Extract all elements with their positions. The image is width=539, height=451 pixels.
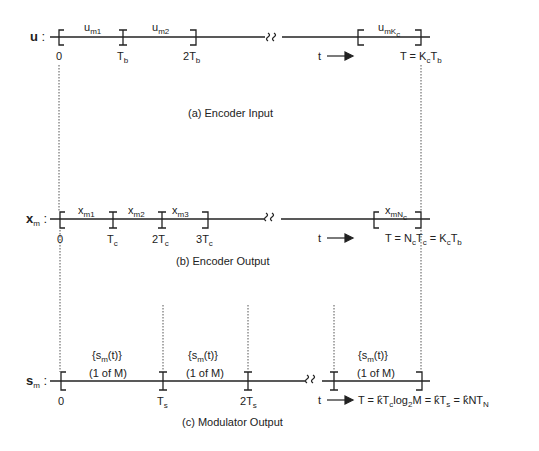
time-label-a: t xyxy=(318,51,321,62)
tick-0-b: 0 xyxy=(57,234,63,245)
segment-label-xm2: xm2 xyxy=(128,205,145,219)
segment-sublabel-1ofm-3: (1 of M) xyxy=(357,368,395,379)
row-label-u: u : xyxy=(30,30,45,43)
segment-label-sm-2: {sm(t)} xyxy=(188,350,218,364)
caption-b: (b) Encoder Output xyxy=(176,256,270,267)
segment-sublabel-1ofm-1: (1 of M) xyxy=(89,368,127,379)
tick-2tc: 2Tc xyxy=(152,234,169,248)
time-label-b: t xyxy=(318,233,321,244)
caption-a: (a) Encoder Input xyxy=(188,108,273,119)
segment-sublabel-1ofm-2: (1 of M) xyxy=(186,368,224,379)
segment-label-um1: um1 xyxy=(84,22,101,36)
timing-diagram-lines xyxy=(0,0,539,451)
segment-label-sm-1: {sm(t)} xyxy=(92,350,122,364)
end-formula-c: T = k̂Tclog2M = k̂Ts = k̂NTN xyxy=(358,395,489,409)
tick-0-c: 0 xyxy=(58,396,64,407)
time-label-c: t xyxy=(318,395,321,406)
end-formula-b: T = NcTc = KcTb xyxy=(385,233,462,247)
segment-label-umkc: umKc xyxy=(378,22,400,39)
tick-ts: Ts xyxy=(157,396,168,410)
segment-label-xm3: xm3 xyxy=(172,205,189,219)
caption-c: (c) Modulator Output xyxy=(182,417,283,428)
tick-2tb: 2Tb xyxy=(183,51,200,65)
row-label-xm: xm : xyxy=(26,212,47,228)
tick-3tc: 3Tc xyxy=(196,234,213,248)
row-label-sm: sm : xyxy=(26,374,47,390)
segment-label-xm1: xm1 xyxy=(78,205,95,219)
segment-label-um2: um2 xyxy=(152,22,169,36)
segment-label-xmnc: xmNc xyxy=(385,205,407,222)
end-formula-a: T = KcTb xyxy=(400,51,442,65)
tick-0-a: 0 xyxy=(56,51,62,62)
tick-2ts: 2Ts xyxy=(240,396,257,410)
segment-label-sm-3: {sm(t)} xyxy=(358,350,388,364)
tick-tb: Tb xyxy=(117,51,128,65)
tick-tc: Tc xyxy=(107,234,118,248)
